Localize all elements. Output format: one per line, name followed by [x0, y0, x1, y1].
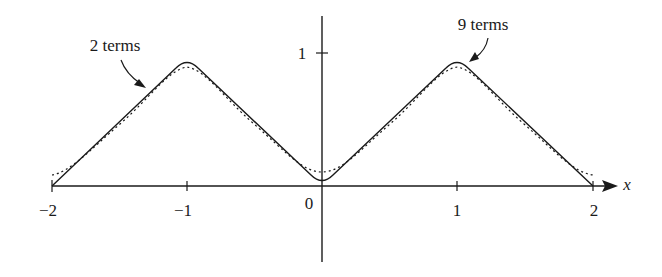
tick-label-2: 2	[590, 201, 599, 220]
x-axis-label: x	[622, 175, 631, 194]
tick-label-y1: 1	[298, 44, 307, 63]
annotation-2-terms: 2 terms	[90, 36, 141, 55]
tick-label-1: 1	[453, 201, 462, 220]
annotation-9-terms: 9 terms	[458, 15, 509, 34]
fourier-chart: −2 −1 0 1 2 1 x 2 terms 9 terms	[0, 0, 662, 277]
tick-label-m1: −1	[174, 201, 192, 220]
annotation-9-arrow-icon	[475, 38, 488, 58]
annotation-9-arrowhead-icon	[469, 52, 479, 62]
tick-label-0: 0	[305, 194, 314, 213]
tick-label-m2: −2	[39, 201, 57, 220]
